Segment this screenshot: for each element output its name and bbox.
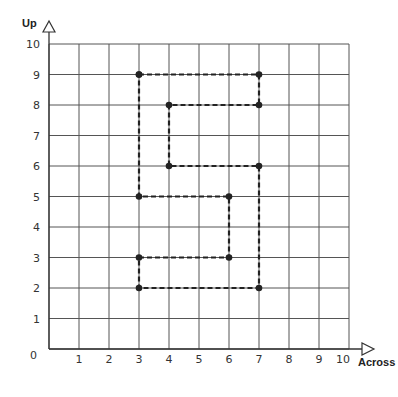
data-point xyxy=(256,102,263,109)
data-point xyxy=(136,71,143,78)
y-tick-label: 2 xyxy=(33,282,40,295)
x-tick-label: 3 xyxy=(136,353,143,366)
y-tick-label: 9 xyxy=(33,69,40,82)
x-axis-label: Across xyxy=(358,356,395,368)
x-tick-label: 8 xyxy=(286,353,293,366)
across-arrow-icon xyxy=(362,343,374,355)
data-point xyxy=(136,254,143,261)
x-tick-label: 7 xyxy=(256,353,263,366)
data-point xyxy=(226,193,233,200)
x-tick-label: 9 xyxy=(316,353,323,366)
origin-label: 0 xyxy=(30,349,37,362)
data-point xyxy=(256,71,263,78)
data-point xyxy=(166,163,173,170)
data-point xyxy=(136,193,143,200)
y-axis-label: Up xyxy=(22,17,37,29)
data-point xyxy=(256,163,263,170)
data-point xyxy=(256,285,263,292)
up-arrow-icon xyxy=(43,21,55,32)
data-point xyxy=(136,285,143,292)
y-tick-label: 1 xyxy=(33,313,40,326)
x-tick-label: 1 xyxy=(76,353,83,366)
y-tick-label: 4 xyxy=(33,221,40,234)
y-tick-label: 6 xyxy=(33,160,40,173)
y-tick-label: 8 xyxy=(33,99,40,112)
y-tick-label: 5 xyxy=(33,191,40,204)
data-point xyxy=(166,102,173,109)
coordinate-grid-chart: 12345678910123456789100UpAcross xyxy=(0,0,398,397)
x-tick-label: 5 xyxy=(196,353,203,366)
x-tick-label: 4 xyxy=(166,353,173,366)
x-tick-label: 10 xyxy=(336,353,350,366)
y-tick-label: 3 xyxy=(33,252,40,265)
x-tick-label: 6 xyxy=(226,353,233,366)
y-tick-label: 10 xyxy=(26,38,40,51)
x-tick-label: 2 xyxy=(106,353,113,366)
y-tick-label: 7 xyxy=(33,130,40,143)
data-point xyxy=(226,254,233,261)
